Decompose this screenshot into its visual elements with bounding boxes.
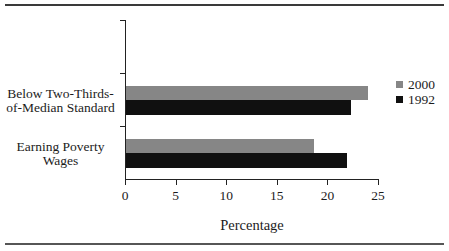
- category-label-line: of-Median Standard: [6, 100, 114, 115]
- legend-label-1992: 1992: [408, 92, 435, 107]
- x-axis-tick: [378, 179, 379, 185]
- x-axis-tick: [125, 179, 126, 185]
- x-axis-tick: [176, 179, 177, 185]
- bar-1992-category-0: [126, 100, 351, 115]
- category-label-below-two-thirds-of-median-standard: Below Two-Thirds- of-Median Standard: [0, 87, 121, 114]
- x-axis-tick: [277, 179, 278, 185]
- legend-swatch-2000: [396, 81, 403, 88]
- x-tick-label-20: 20: [312, 188, 342, 204]
- x-axis-title: Percentage: [125, 217, 379, 234]
- x-axis-line: [125, 179, 379, 180]
- bar-2000-category-1: [126, 139, 314, 153]
- x-tick-label-5: 5: [161, 188, 191, 204]
- y-axis-tick: [120, 20, 126, 21]
- category-label-earning-poverty-wages: Earning Poverty Wages: [0, 140, 121, 167]
- y-axis-tick: [120, 126, 126, 127]
- figure: 0 5 10 15 20 25 Below Two-Thirds- of-Med…: [0, 0, 449, 251]
- legend-label-2000: 2000: [408, 77, 435, 92]
- x-tick-label-25: 25: [363, 188, 393, 204]
- bar-2000-category-0: [126, 86, 368, 100]
- legend: 2000 1992: [396, 77, 435, 107]
- legend-item-2000: 2000: [396, 77, 435, 92]
- legend-swatch-1992: [396, 96, 403, 103]
- x-tick-label-10: 10: [211, 188, 241, 204]
- x-axis-tick: [226, 179, 227, 185]
- legend-item-1992: 1992: [396, 92, 435, 107]
- y-axis-tick: [120, 73, 126, 74]
- plot-area: 0 5 10 15 20 25 Below Two-Thirds- of-Med…: [0, 0, 449, 251]
- x-axis-tick: [327, 179, 328, 185]
- x-tick-label-15: 15: [262, 188, 292, 204]
- x-tick-label-0: 0: [110, 188, 140, 204]
- bar-1992-category-1: [126, 153, 347, 168]
- category-label-line: Wages: [43, 153, 79, 168]
